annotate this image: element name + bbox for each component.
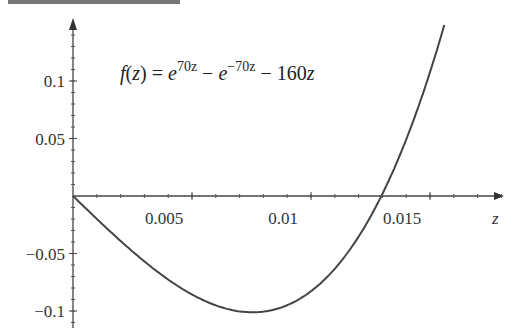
y-tick-label: 0.05 xyxy=(35,130,65,149)
x-tick-label: 0.005 xyxy=(145,209,183,228)
y-tick-label: −0.1 xyxy=(34,302,65,321)
y-tick-label: −0.05 xyxy=(26,245,65,264)
x-tick-label: 0.01 xyxy=(268,209,298,228)
y-axis-arrow-icon xyxy=(69,18,77,30)
x-axis-arrow-icon xyxy=(494,192,504,200)
x-tick-label: 0.015 xyxy=(383,209,421,228)
function-plot: 0.0050.010.0150.10.05−0.05−0.1 f(z) = e7… xyxy=(0,0,510,334)
x-axis-label: z xyxy=(491,209,499,228)
formula-annotation: f(z) = e70z − e−70z − 160z xyxy=(120,59,315,85)
y-tick-label: 0.1 xyxy=(44,72,65,91)
